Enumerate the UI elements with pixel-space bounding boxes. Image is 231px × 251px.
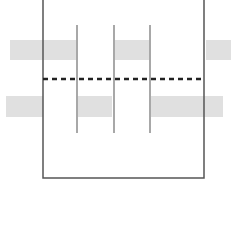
- gray-block: [206, 40, 231, 60]
- gray-block: [151, 96, 223, 117]
- gray-block: [6, 96, 43, 117]
- gray-block: [78, 96, 112, 117]
- diagram-canvas: [0, 0, 231, 251]
- outer-frame: [43, 0, 204, 178]
- gray-block: [114, 40, 150, 60]
